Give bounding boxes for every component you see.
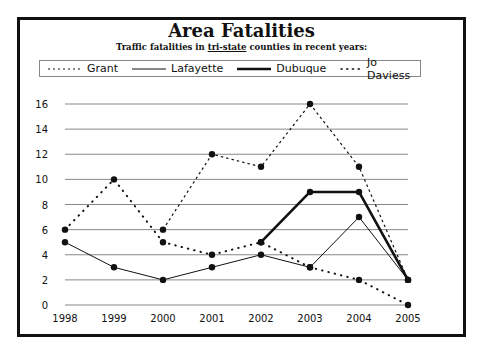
data-point (209, 151, 215, 157)
data-point (356, 277, 362, 283)
y-tick-label: 10 (35, 174, 48, 185)
y-tick-label: 0 (42, 300, 48, 311)
series-jo-daviess (62, 176, 411, 308)
y-tick-label: 2 (42, 275, 48, 286)
x-axis-ticks: 19981999200020012002200320042005 (52, 313, 420, 324)
data-point (307, 189, 313, 195)
data-point (160, 239, 166, 245)
y-tick-label: 14 (35, 124, 48, 135)
data-point (62, 239, 68, 245)
data-point (160, 277, 166, 283)
data-point (356, 189, 362, 195)
y-tick-label: 6 (42, 225, 48, 236)
data-point (209, 264, 215, 270)
x-tick-label: 2000 (150, 313, 175, 324)
data-point (356, 164, 362, 170)
y-tick-label: 8 (42, 200, 48, 211)
data-point (405, 302, 411, 308)
data-point (258, 252, 264, 258)
x-tick-label: 2005 (395, 313, 420, 324)
data-point (62, 226, 68, 232)
data-point (307, 264, 313, 270)
x-tick-label: 1999 (101, 313, 126, 324)
data-point (160, 226, 166, 232)
x-tick-label: 2003 (297, 313, 322, 324)
line-chart: 0246810121416 19981999200020012002200320… (0, 0, 483, 354)
grid-lines (65, 104, 408, 305)
data-point (111, 264, 117, 270)
data-point (258, 239, 264, 245)
x-tick-label: 1998 (52, 313, 77, 324)
data-point (111, 176, 117, 182)
data-point (405, 277, 411, 283)
data-point (356, 214, 362, 220)
series-dubuque (258, 189, 411, 283)
data-point (258, 164, 264, 170)
x-tick-label: 2002 (248, 313, 273, 324)
y-tick-label: 16 (35, 99, 48, 110)
x-tick-label: 2004 (346, 313, 371, 324)
y-axis-ticks: 0246810121416 (35, 99, 48, 311)
x-tick-label: 2001 (199, 313, 224, 324)
series-lafayette (62, 214, 411, 283)
y-tick-label: 12 (35, 149, 48, 160)
data-point (209, 252, 215, 258)
data-point (307, 101, 313, 107)
series-grant (160, 101, 411, 283)
y-tick-label: 4 (42, 250, 48, 261)
